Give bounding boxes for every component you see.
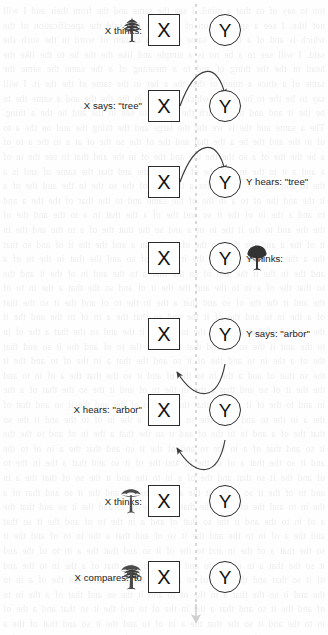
node-y-circle[interactable]: Y <box>209 14 241 46</box>
node-x-square[interactable]: X <box>148 242 180 274</box>
node-x-square[interactable]: X <box>148 166 180 198</box>
diagram-row: X Y Y thinks: <box>0 242 328 276</box>
diagram-row: X thinks: X Y <box>0 485 328 519</box>
parasol-tree-icon <box>120 563 142 591</box>
row-8-left-annotation: X compares: <box>74 561 142 593</box>
diagram-row: X compares: <box>0 561 328 595</box>
node-y-circle[interactable]: Y <box>209 242 241 274</box>
row-2-label: X says: "tree" <box>84 100 142 111</box>
diagram-row: X says: "tree" X Y <box>0 90 328 124</box>
node-x-square[interactable]: X <box>148 485 180 517</box>
node-y-circle[interactable]: Y <box>209 318 241 350</box>
diagram-row: X hears: "arbor" X Y <box>0 394 328 428</box>
arrow-y-to-x-1 <box>177 364 225 394</box>
parasol-tree-icon <box>120 487 142 515</box>
row-4-right-annotation: Y thinks: <box>246 242 283 274</box>
diagram-row: X Y Y hears: "tree" <box>0 166 328 200</box>
node-x-square[interactable]: X <box>148 318 180 350</box>
node-y-circle[interactable]: Y <box>209 166 241 198</box>
node-y-circle[interactable]: Y <box>209 394 241 426</box>
node-x-square[interactable]: X <box>148 90 180 122</box>
node-x-square[interactable]: X <box>148 394 180 426</box>
arrow-y-to-x-2 <box>177 440 225 470</box>
row-1-left-annotation: X thinks: <box>105 14 142 46</box>
row-3-label: Y hears: "tree" <box>246 176 308 187</box>
bushy-tree-icon <box>246 244 268 272</box>
node-y-circle[interactable]: Y <box>209 561 241 593</box>
row-5-label: Y says: "arbor" <box>246 328 310 339</box>
row-6-label: X hears: "arbor" <box>74 404 142 415</box>
diagram-row: X Y Y says: "arbor" <box>0 318 328 352</box>
node-x-square[interactable]: X <box>148 561 180 593</box>
node-y-circle[interactable]: Y <box>209 90 241 122</box>
row-7-left-annotation: X thinks: <box>105 485 142 517</box>
diagram-row: X thinks: <box>0 14 328 48</box>
diagram-canvas: ton to say of us that a mind. I see the … <box>0 0 328 635</box>
node-x-square[interactable]: X <box>148 14 180 46</box>
spiky-tree-icon <box>122 16 142 44</box>
node-y-circle[interactable]: Y <box>209 485 241 517</box>
